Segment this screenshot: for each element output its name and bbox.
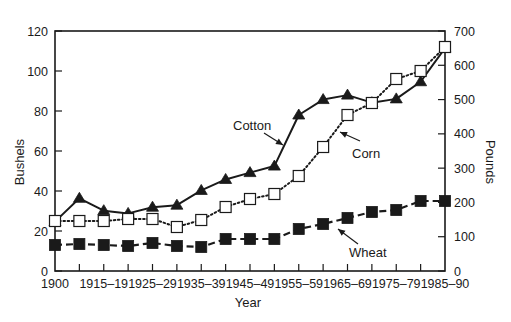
left-tick-label: 40 — [34, 185, 48, 199]
x-tick-label: 1965–69 — [323, 277, 372, 291]
open-square-marker — [366, 98, 377, 109]
left-tick-label: 120 — [27, 25, 48, 39]
filled-square-marker — [50, 240, 61, 251]
filled-square-marker — [171, 241, 182, 252]
annotation-label-corn: Corn — [352, 146, 380, 161]
left-tick-label: 80 — [34, 105, 48, 119]
left-y-axis-title: Bushels — [12, 138, 27, 185]
series-corn — [50, 42, 451, 233]
chart-canvas: 020406080100120 0100200300400500600700 1… — [0, 0, 511, 322]
open-square-marker — [415, 66, 426, 77]
filled-square-marker — [366, 207, 377, 218]
x-tick-label: 1945–49 — [226, 277, 275, 291]
filled-square-marker — [440, 196, 451, 207]
open-square-marker — [293, 171, 304, 182]
open-square-marker — [318, 142, 329, 153]
x-tick-label: 1955–59 — [274, 277, 323, 291]
triangle-marker — [342, 89, 354, 99]
open-square-marker — [245, 194, 256, 205]
filled-square-marker — [391, 205, 402, 216]
open-square-marker — [440, 42, 451, 53]
triangle-marker — [98, 205, 110, 215]
right-y-axis-ticks: 0100200300400500600700 — [438, 25, 475, 279]
open-square-marker — [123, 214, 134, 225]
right-tick-label: 600 — [454, 59, 475, 73]
filled-square-marker — [293, 224, 304, 235]
triangle-marker — [171, 199, 183, 209]
filled-square-marker — [342, 213, 353, 224]
filled-square-marker — [245, 234, 256, 245]
x-axis-ticks: 19001915–191925–291935–391945–491955–591… — [41, 264, 469, 291]
filled-square-marker — [196, 242, 207, 253]
right-tick-label: 300 — [454, 162, 475, 176]
x-tick-label: 1985–90 — [421, 277, 470, 291]
arrowhead-icon — [275, 139, 283, 145]
open-square-marker — [196, 215, 207, 226]
filled-square-marker — [98, 240, 109, 251]
x-tick-label: 1935–39 — [177, 277, 226, 291]
triangle-marker — [73, 192, 85, 202]
open-square-marker — [269, 189, 280, 200]
right-tick-label: 200 — [454, 196, 475, 210]
open-square-marker — [74, 216, 85, 227]
open-square-marker — [342, 110, 353, 121]
x-tick-label: 1975–79 — [372, 277, 421, 291]
filled-square-marker — [318, 219, 329, 230]
triangle-marker — [390, 93, 402, 103]
right-y-axis-title: Pounds — [483, 140, 498, 185]
right-tick-label: 100 — [454, 230, 475, 244]
x-axis-title: Year — [235, 295, 262, 310]
filled-square-marker — [269, 234, 280, 245]
x-tick-label: 1915–19 — [79, 277, 128, 291]
x-tick-label: 1925–29 — [128, 277, 177, 291]
filled-square-marker — [74, 239, 85, 250]
left-tick-label: 20 — [34, 225, 48, 239]
right-tick-label: 500 — [454, 93, 475, 107]
right-tick-label: 400 — [454, 127, 475, 141]
annotation-label-cotton: Cotton — [233, 118, 271, 133]
filled-square-marker — [123, 241, 134, 252]
open-square-marker — [220, 202, 231, 213]
open-square-marker — [98, 216, 109, 227]
annotation-label-wheat: Wheat — [349, 245, 387, 260]
right-tick-label: 700 — [454, 25, 475, 39]
filled-square-marker — [415, 196, 426, 207]
x-tick-label: 1900 — [41, 277, 69, 291]
open-square-marker — [171, 222, 182, 233]
open-square-marker — [50, 216, 61, 227]
triangle-marker — [293, 109, 305, 119]
open-square-marker — [391, 74, 402, 85]
series-layer — [49, 42, 451, 253]
left-tick-label: 60 — [34, 145, 48, 159]
arrowhead-icon — [338, 229, 346, 236]
filled-square-marker — [147, 238, 158, 249]
filled-square-marker — [220, 234, 231, 245]
triangle-marker — [268, 160, 280, 170]
open-square-marker — [147, 214, 158, 225]
left-tick-label: 100 — [27, 65, 48, 79]
